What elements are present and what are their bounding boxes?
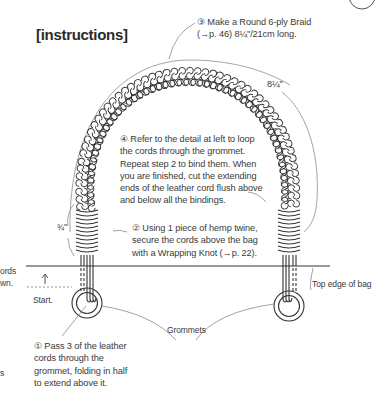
braid-link [281,182,288,194]
braid-link [194,67,202,79]
braid-link [281,197,288,209]
step3-number: ③ [197,17,205,27]
left-wrapping-knot [76,210,98,252]
step1-line-2: cords through the [34,352,127,364]
step4-number: ④ [120,134,128,144]
step3-line-2: (→p. 46) 8¼"/21cm long. [197,29,297,39]
step1-number: ① [34,341,42,351]
braid-link [286,169,299,177]
right-grommet [274,291,304,321]
right-leather-cords [283,255,296,302]
braid-link [87,185,94,197]
step4-line-6: and below all the bindings. [120,194,262,206]
clipped-left-text-3: s [0,367,4,379]
step4-line-5: ends of the leather cord flush above [120,182,262,194]
step3-text: ③ Make a Round 6-ply Braid (→p. 46) 8¼"/… [197,16,311,41]
braid-link [179,67,186,79]
step4-line-3: Repeat step 2 to bind them. When [120,158,262,170]
step3-line-1: Make a Round 6-ply Braid [207,17,311,27]
step2-text: ② Using 1 piece of hemp twine, secure th… [132,222,258,259]
step4-line-2: the cords through the grommet. [120,145,262,157]
braid-link [76,188,88,195]
right-wrapping-knot [278,210,300,252]
braid-length-label: 8¼" [267,78,283,90]
binding-length-label: ¾" [57,221,67,233]
step2-line-3: with a Wrapping Knot (→p. 22). [132,247,258,259]
braid-link [287,177,299,185]
step1-text: ① Pass 3 of the leather cords through th… [34,340,127,389]
braid-link [87,178,94,190]
step4-line-1: Refer to the detail at left to loop [130,134,254,144]
braid-link [281,190,288,202]
clipped-left-text-2: wn. [0,277,13,289]
binding-length-bracket [68,204,74,256]
braid-link [76,195,88,202]
braid-link [87,192,94,204]
braid-link [76,180,88,187]
start-arrow-icon [42,274,48,284]
braid-link [171,68,179,81]
step1-line-1: Pass 3 of the leather [44,341,126,351]
braid-link [76,172,88,180]
braid-link [184,79,196,86]
braid-link [177,79,189,86]
step3-leader [169,23,195,59]
braid-link [266,112,280,124]
braid-link [270,118,284,130]
step2-leader [113,230,127,232]
step1-line-4: to extend above it. [34,377,127,389]
step4-line-4: you are finished, cut the extending [120,170,262,182]
braid-link [279,139,292,149]
braid-link [186,67,193,79]
braid-link [288,200,300,207]
grommets-label: Grommets [167,324,206,336]
step2-line-1: Using 1 piece of hemp twine, [142,223,257,233]
braid-link [133,78,145,92]
grommets-leader-right [196,304,274,340]
step4-text: ④ Refer to the detail at left to loop th… [120,133,262,207]
step1-line-3: grommet, folding in half [34,365,127,377]
braid-length-arc-right [282,92,317,232]
clipped-left-text-1: ords [0,265,16,277]
page-title: [instructions] [36,26,128,43]
step2-number: ② [132,223,140,233]
page-marker-circle [349,0,375,9]
braid-link [288,185,300,192]
grommets-leader-left [102,306,176,340]
left-grommet [72,288,102,318]
top-edge-label: Top edge of bag [312,278,371,290]
braid-link [76,202,88,210]
braid-link [288,192,300,199]
step2-line-2: secure the cords above the bag [132,234,258,246]
braid-link [141,75,152,89]
start-label: Start. [33,294,53,306]
